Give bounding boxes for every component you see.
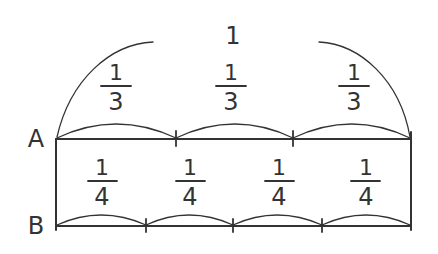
fraction-a1-numerator: 1 — [109, 60, 123, 85]
fraction-a2-denominator: 3 — [223, 88, 238, 116]
fraction-a1-denominator: 3 — [108, 88, 123, 116]
bar-a-label: A — [28, 125, 45, 153]
fraction-b2-denominator: 4 — [182, 183, 197, 211]
whole-brace-right — [319, 42, 410, 137]
fraction-a3-numerator: 1 — [347, 60, 361, 85]
arc-b-3 — [233, 215, 322, 225]
fraction-b4-numerator: 1 — [359, 155, 373, 180]
fraction-a2-numerator: 1 — [224, 60, 238, 85]
arc-a-2 — [176, 124, 293, 138]
fraction-a3-denominator: 3 — [346, 88, 361, 116]
fraction-b4-denominator: 4 — [358, 183, 373, 211]
whole-brace-left — [57, 42, 153, 137]
arc-b-2 — [146, 215, 233, 225]
arc-b-1 — [57, 215, 146, 225]
fraction-b3-denominator: 4 — [271, 183, 286, 211]
fraction-b1-denominator: 4 — [94, 183, 109, 211]
fraction-b2-numerator: 1 — [183, 155, 197, 180]
whole-label: 1 — [225, 22, 240, 50]
fraction-bar-diagram: 1 1 3 1 3 1 3 1 4 1 4 1 4 1 4 A B — [0, 0, 438, 254]
bar-b-label: B — [28, 212, 44, 240]
fraction-b1-numerator: 1 — [95, 155, 109, 180]
fraction-b3-numerator: 1 — [272, 155, 286, 180]
arc-a-3 — [293, 124, 410, 138]
arc-a-1 — [57, 124, 176, 138]
arc-b-4 — [322, 215, 410, 225]
